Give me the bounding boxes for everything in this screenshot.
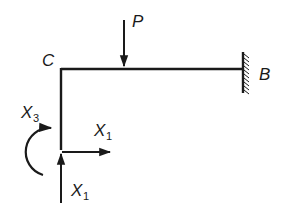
frame-diagram: P C B X 1 X 1 X 3 <box>0 0 287 212</box>
x3-moment-arrow-icon <box>26 128 51 175</box>
load-p-label: P <box>132 12 144 31</box>
node-c-label: C <box>42 51 55 70</box>
svg-text:1: 1 <box>106 130 112 142</box>
svg-text:X: X <box>20 103 33 122</box>
x3-moment-label: X 3 <box>20 103 39 124</box>
node-b-label: B <box>259 65 270 84</box>
x1-vertical-label: X 1 <box>70 181 89 202</box>
fixed-support-icon <box>243 52 249 94</box>
svg-text:X: X <box>70 181 83 200</box>
svg-text:3: 3 <box>33 112 39 124</box>
svg-text:1: 1 <box>83 190 89 202</box>
x1-horizontal-label: X 1 <box>93 121 112 142</box>
svg-text:X: X <box>93 121 106 140</box>
